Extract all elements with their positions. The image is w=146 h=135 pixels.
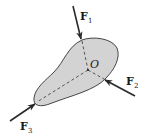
rigid-body	[34, 38, 118, 106]
force-f1-label: F 1	[80, 10, 92, 25]
point-o	[87, 69, 89, 71]
svg-text:2: 2	[134, 82, 138, 90]
point-o-label: O	[90, 58, 99, 71]
force-f3-label: F 3	[20, 120, 32, 135]
free-body-diagram: O F 1 F 2 F 3	[0, 0, 146, 135]
svg-text:F: F	[20, 120, 28, 133]
svg-text:1: 1	[88, 17, 92, 25]
force-f2-label: F 2	[126, 75, 138, 90]
force-f3-arrow	[10, 104, 35, 121]
svg-text:3: 3	[28, 127, 32, 135]
svg-text:F: F	[80, 10, 88, 23]
svg-text:F: F	[126, 75, 134, 88]
